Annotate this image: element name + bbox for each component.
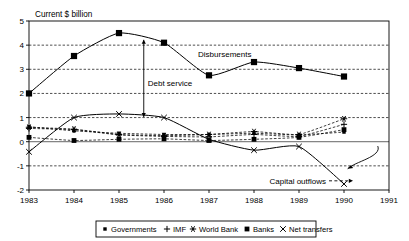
y-tick-label: 3 xyxy=(20,65,25,74)
filled-square-large-marker xyxy=(251,59,257,65)
annotations: Current $ billionDebt serviceDisbursemen… xyxy=(35,10,378,186)
chart-container: 543210-1-2198319841985198619871988198919… xyxy=(0,0,409,241)
disbursements-label: Disbursements xyxy=(198,50,251,59)
x-tick-label: 1986 xyxy=(155,196,173,205)
y-tick-label: 2 xyxy=(20,89,25,98)
asterisk-marker xyxy=(341,116,347,122)
x-tick-label: 1984 xyxy=(65,196,83,205)
grid-lines xyxy=(29,45,389,166)
filled-square-marker xyxy=(72,138,77,143)
legend-item-governments[interactable]: Governments xyxy=(103,225,156,234)
y-tick-label: 5 xyxy=(20,17,25,26)
filled-square-marker xyxy=(162,136,167,141)
x-tick-label: 1990 xyxy=(335,196,353,205)
filled-square-large-marker xyxy=(116,30,122,36)
filled-square-large-marker xyxy=(71,53,77,59)
x-tick-label: 1987 xyxy=(200,196,218,205)
x-tick-label: 1985 xyxy=(110,196,128,205)
series-line xyxy=(29,119,344,136)
capital-outflows-leader xyxy=(348,146,379,169)
series-net-transfers xyxy=(26,111,347,187)
legend-item-net-transfers[interactable]: Net transfers xyxy=(280,225,332,234)
legend-label: World Bank xyxy=(199,225,238,234)
y-tick-label: 1 xyxy=(20,114,25,123)
line-chart: 543210-1-2198319841985198619871988198919… xyxy=(0,0,409,241)
cross-marker xyxy=(341,181,347,187)
capital-outflows-arrow xyxy=(329,179,353,183)
filled-square-marker xyxy=(297,135,302,140)
chart-title: Current $ billion xyxy=(35,10,93,19)
filled-square-large-marker xyxy=(296,65,302,71)
filled-square-large-marker xyxy=(26,90,32,96)
filled-square-large-marker xyxy=(161,40,167,46)
y-tick-label: 4 xyxy=(20,41,25,50)
legend: GovernmentsIMFWorld BankBanksNet transfe… xyxy=(96,221,333,237)
filled-square-large-marker xyxy=(206,72,212,78)
filled-square-marker xyxy=(245,227,250,232)
filled-square-marker xyxy=(117,137,122,142)
x-tick-label: 1989 xyxy=(290,196,308,205)
filled-square-marker xyxy=(252,137,257,142)
filled-square-large-marker xyxy=(341,73,347,79)
filled-square-marker xyxy=(342,127,347,132)
debt-service-label: Debt service xyxy=(148,79,193,88)
plot-frame xyxy=(29,21,389,190)
axes xyxy=(26,21,389,193)
capital-outflows-label: Capital outflows xyxy=(270,177,326,186)
y-tick-label: 0 xyxy=(20,138,25,147)
legend-label: Banks xyxy=(253,225,274,234)
y-tick-label: -1 xyxy=(17,162,25,171)
x-tick-label: 1991 xyxy=(380,196,398,205)
x-tick-label: 1988 xyxy=(245,196,263,205)
data-series xyxy=(26,30,347,187)
small-filled-square-marker xyxy=(103,227,106,230)
legend-label: Net transfers xyxy=(289,225,333,234)
filled-square-marker xyxy=(27,135,32,140)
y-tick-label: -2 xyxy=(17,186,25,195)
legend-label: IMF xyxy=(173,225,186,234)
x-tick-label: 1983 xyxy=(20,196,38,205)
legend-label: Governments xyxy=(111,225,157,234)
debt-service-arrow xyxy=(142,40,146,117)
plus-marker xyxy=(341,121,347,127)
